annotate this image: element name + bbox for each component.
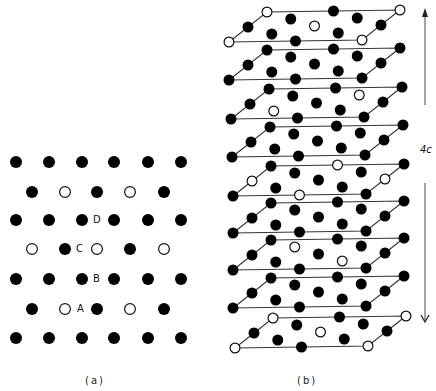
filled-atom bbox=[313, 249, 324, 260]
filled-atom bbox=[332, 272, 343, 283]
open-atom bbox=[125, 304, 136, 315]
filled-atom bbox=[175, 214, 187, 226]
open-atom bbox=[290, 242, 300, 252]
open-atom bbox=[269, 106, 279, 116]
filled-atom bbox=[328, 44, 339, 55]
filled-atom bbox=[292, 113, 303, 124]
filled-atom bbox=[311, 98, 322, 109]
filled-atom bbox=[108, 273, 120, 285]
filled-atom bbox=[356, 204, 367, 215]
layer-4 bbox=[227, 120, 409, 163]
open-atom bbox=[401, 311, 411, 321]
filled-atom bbox=[245, 99, 256, 110]
filled-atom bbox=[291, 320, 302, 331]
caption-a: (a) bbox=[85, 375, 105, 386]
filled-atom bbox=[142, 273, 154, 285]
filled-atom bbox=[142, 332, 154, 344]
filled-atom bbox=[361, 189, 372, 200]
filled-atom bbox=[266, 67, 277, 78]
filled-atom bbox=[356, 241, 367, 252]
filled-atom bbox=[294, 264, 305, 275]
site-label-b: B bbox=[93, 274, 100, 284]
filled-atom bbox=[264, 84, 275, 95]
filled-atom bbox=[380, 211, 391, 222]
crystal-structure-figure bbox=[0, 0, 436, 391]
filled-atom bbox=[378, 97, 389, 108]
filled-atom bbox=[332, 234, 343, 245]
open-atom bbox=[262, 7, 272, 17]
arrow-up-icon bbox=[422, 8, 428, 17]
filled-atom bbox=[290, 74, 301, 85]
filled-atom bbox=[331, 121, 342, 132]
filled-atom bbox=[266, 161, 277, 172]
filled-atom bbox=[175, 332, 187, 344]
site-label-c: C bbox=[76, 244, 83, 254]
filled-atom bbox=[262, 45, 273, 56]
filled-atom bbox=[336, 143, 347, 154]
filled-atom bbox=[313, 175, 324, 186]
filled-atom bbox=[357, 73, 368, 84]
filled-atom bbox=[158, 186, 170, 198]
site-label-a: A bbox=[77, 304, 84, 314]
open-atom bbox=[357, 35, 367, 45]
filled-atom bbox=[247, 288, 258, 299]
panel-b-stacked-layers bbox=[224, 5, 411, 353]
filled-atom bbox=[313, 287, 324, 298]
filled-atom bbox=[26, 186, 38, 198]
filled-atom bbox=[91, 303, 103, 315]
filled-atom bbox=[228, 191, 239, 202]
filled-atom bbox=[337, 182, 348, 193]
layer-3 bbox=[226, 82, 408, 125]
filled-atom bbox=[226, 114, 237, 125]
open-atom bbox=[268, 313, 278, 323]
filled-atom bbox=[43, 332, 55, 344]
filled-atom bbox=[332, 197, 343, 208]
filled-atom bbox=[243, 22, 254, 33]
filled-atom bbox=[43, 156, 55, 168]
filled-atom bbox=[10, 214, 22, 226]
filled-atom bbox=[361, 263, 372, 274]
filled-atom bbox=[266, 273, 277, 284]
filled-atom bbox=[287, 91, 298, 102]
filled-atom bbox=[334, 312, 345, 323]
filled-atom bbox=[399, 159, 410, 170]
filled-atom bbox=[339, 334, 350, 345]
filled-atom bbox=[398, 120, 409, 131]
filled-atom bbox=[228, 228, 239, 239]
filled-atom bbox=[335, 105, 346, 116]
layer-9 bbox=[230, 311, 411, 353]
filled-atom bbox=[142, 214, 154, 226]
filled-atom bbox=[227, 152, 238, 163]
filled-atom bbox=[333, 66, 344, 77]
filled-atom bbox=[224, 75, 235, 86]
open-atom bbox=[363, 341, 373, 351]
filled-atom bbox=[10, 273, 22, 285]
filled-atom bbox=[266, 29, 277, 40]
filled-atom bbox=[270, 295, 281, 306]
site-label-d: D bbox=[93, 215, 101, 225]
filled-atom bbox=[108, 156, 120, 168]
filled-atom bbox=[352, 13, 363, 24]
filled-atom bbox=[43, 273, 55, 285]
filled-atom bbox=[328, 6, 339, 17]
filled-atom bbox=[399, 271, 410, 282]
filled-atom bbox=[228, 265, 239, 276]
filled-atom bbox=[247, 213, 258, 224]
filled-atom bbox=[359, 112, 370, 123]
filled-atom bbox=[333, 28, 344, 39]
layer-7 bbox=[228, 233, 410, 276]
filled-atom bbox=[272, 335, 283, 346]
filled-atom bbox=[361, 226, 372, 237]
open-atom bbox=[125, 187, 136, 198]
filled-atom bbox=[247, 250, 258, 261]
filled-atom bbox=[309, 59, 320, 70]
open-atom bbox=[159, 244, 170, 255]
filled-atom bbox=[269, 144, 280, 155]
filled-atom bbox=[330, 83, 341, 94]
caption-b: (b) bbox=[297, 375, 317, 386]
open-atom bbox=[295, 190, 305, 200]
open-atom bbox=[224, 37, 234, 47]
layer-5 bbox=[228, 159, 410, 202]
layer-6 bbox=[228, 196, 410, 239]
filled-atom bbox=[124, 243, 136, 255]
